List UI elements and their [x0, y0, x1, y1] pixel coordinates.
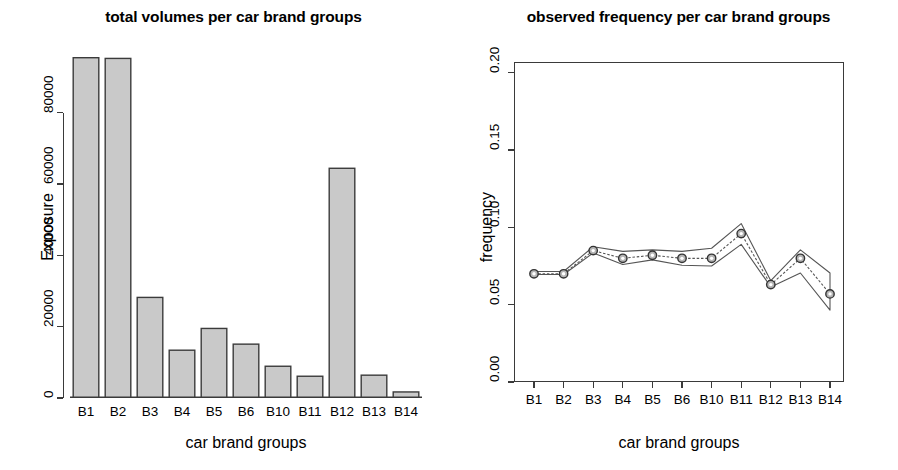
bar-B4: [169, 350, 195, 398]
left-y-axis-title: Exposure: [39, 167, 57, 287]
bar-B2: [105, 58, 131, 398]
left-x-axis-title: car brand groups: [186, 434, 307, 452]
data-point-B11: [737, 229, 745, 237]
data-point-B10: [707, 254, 715, 262]
left-chart-title: total volumes per car brand groups: [0, 8, 449, 26]
right-x-tick: [593, 382, 594, 388]
left-y-axis-line: [63, 113, 64, 398]
data-point-B6: [678, 254, 686, 262]
right-y-axis-title: frequency: [478, 167, 496, 287]
left-plot-area: [70, 52, 422, 398]
left-x-tick-label-B1: B1: [78, 404, 95, 419]
data-point-B14: [826, 290, 834, 298]
right-x-tick: [622, 382, 623, 388]
figure-canvas: total volumes per car brand groups 02000…: [0, 0, 898, 470]
bar-B5: [201, 328, 227, 398]
right-x-tick: [533, 382, 534, 388]
data-point-B13: [796, 254, 804, 262]
left-x-tick-label-B12: B12: [330, 404, 354, 419]
right-y-tick: [508, 72, 514, 73]
left-x-tick-label-B3: B3: [142, 404, 159, 419]
data-point-B12: [767, 280, 775, 288]
right-x-tick-label-B12: B12: [759, 392, 783, 407]
right-x-tick: [652, 382, 653, 388]
bar-B12: [329, 168, 355, 398]
right-x-tick-label-B10: B10: [700, 392, 724, 407]
line-chart-svg: [514, 62, 844, 382]
right-x-axis-title: car brand groups: [619, 434, 740, 452]
left-x-tick-label-B4: B4: [174, 404, 191, 419]
left-x-tick-label-B5: B5: [206, 404, 223, 419]
right-x-tick-label-B14: B14: [818, 392, 842, 407]
data-point-B1: [530, 270, 538, 278]
data-point-B3: [589, 246, 597, 254]
bar-B6: [233, 344, 259, 398]
data-point-B4: [619, 254, 627, 262]
left-x-tick-label-B11: B11: [298, 404, 321, 419]
right-y-tick: [508, 381, 514, 382]
right-x-tick-label-B11: B11: [730, 392, 753, 407]
left-x-tick-label-B6: B6: [238, 404, 255, 419]
right-chart-title: observed frequency per car brand groups: [449, 8, 898, 26]
bar-B13: [361, 375, 387, 398]
right-x-tick: [800, 382, 801, 388]
right-x-tick-label-B4: B4: [615, 392, 632, 407]
right-x-tick: [681, 382, 682, 388]
right-y-tick: [508, 227, 514, 228]
bar-chart-svg: [70, 52, 422, 398]
data-point-B5: [648, 251, 656, 259]
bar-B11: [297, 376, 323, 398]
right-x-tick: [829, 382, 830, 388]
left-x-tick-label-B13: B13: [362, 404, 386, 419]
right-x-tick-label-B13: B13: [788, 392, 812, 407]
confidence-band-outline: [534, 224, 830, 311]
right-y-tick: [508, 304, 514, 305]
panel-total-volumes: total volumes per car brand groups 02000…: [0, 0, 449, 470]
bar-B3: [137, 297, 163, 398]
left-x-tick-label-B10: B10: [266, 404, 290, 419]
left-x-tick-label-B14: B14: [394, 404, 418, 419]
bar-B1: [73, 58, 99, 398]
right-x-tick-label-B5: B5: [644, 392, 661, 407]
left-x-tick-label-B2: B2: [110, 404, 127, 419]
right-y-tick: [508, 149, 514, 150]
right-x-tick: [563, 382, 564, 388]
right-plot-area: [514, 62, 844, 382]
panel-observed-frequency: observed frequency per car brand groups …: [449, 0, 898, 470]
bar-B10: [265, 366, 291, 398]
right-x-tick: [711, 382, 712, 388]
right-x-tick-label-B1: B1: [526, 392, 543, 407]
data-point-B2: [559, 270, 567, 278]
right-x-tick-label-B6: B6: [674, 392, 691, 407]
right-x-tick-label-B2: B2: [555, 392, 572, 407]
right-x-tick: [741, 382, 742, 388]
right-x-tick-label-B3: B3: [585, 392, 602, 407]
right-x-tick: [770, 382, 771, 388]
